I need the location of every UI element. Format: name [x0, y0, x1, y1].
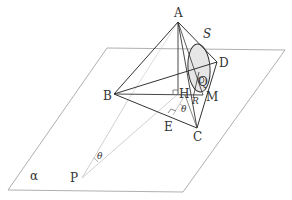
geometry-diagram: A S D B H Q M R E C P α θ θ [0, 0, 292, 200]
label-M: M [206, 90, 218, 104]
label-S: S [203, 27, 211, 41]
label-theta-top: θ [181, 104, 187, 114]
label-alpha: α [30, 169, 38, 183]
label-A: A [173, 6, 183, 20]
label-D: D [219, 56, 229, 70]
label-P: P [70, 171, 78, 185]
label-E: E [164, 120, 173, 134]
edge-A-B [114, 22, 178, 94]
label-R: R [191, 96, 199, 106]
line-P-H [82, 94, 178, 178]
label-H: H [179, 87, 189, 101]
line-A-P-hidden [128, 22, 178, 100]
edge-B-H [114, 94, 203, 95]
right-angle-H [173, 90, 178, 94]
label-C: C [193, 130, 202, 144]
label-Q: Q [198, 75, 208, 89]
plane-alpha [8, 48, 285, 192]
label-B: B [103, 89, 112, 103]
label-theta-bottom: θ [97, 151, 103, 161]
line-P-B-hidden [82, 100, 128, 178]
